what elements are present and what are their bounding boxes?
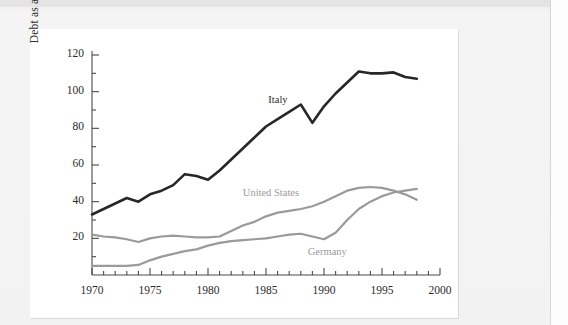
series-line-italy <box>92 72 417 215</box>
page-top-strip <box>0 0 551 7</box>
plot-canvas <box>30 29 458 318</box>
line-chart: Debt as a percent of GDP 20406080100120 … <box>30 29 458 318</box>
series-line-united-states <box>92 187 417 242</box>
page-right-margin <box>551 0 568 325</box>
figure-card: Debt as a percent of GDP 20406080100120 … <box>30 29 458 318</box>
